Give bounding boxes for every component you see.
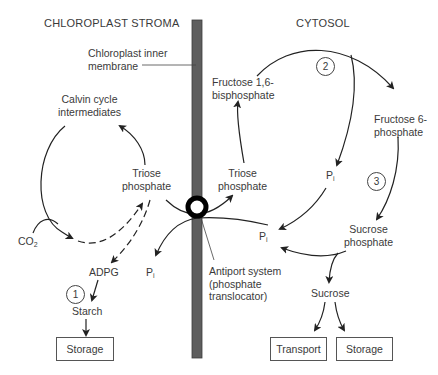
cytosol-triose-phosphate: Triose phosphate bbox=[218, 167, 267, 192]
stroma-storage-box: Storage bbox=[56, 337, 114, 361]
fructose-1-6-bisphosphate: Fructose 1,6- bisphosphate bbox=[212, 76, 274, 101]
stroma-triose-phosphate: Triose phosphate bbox=[122, 167, 171, 192]
sucrose-label: Sucrose bbox=[311, 287, 350, 300]
stroma-header: CHLOROPLAST STROMA bbox=[44, 17, 179, 30]
antiport-label: Antiport system (phosphate translocator) bbox=[209, 265, 281, 303]
co2-label: CO2 bbox=[18, 235, 38, 252]
fructose-6-phosphate: Fructose 6- phosphate bbox=[374, 113, 427, 138]
membrane-label: Chloroplast inner membrane bbox=[88, 47, 167, 72]
step-3-marker: 3 bbox=[367, 172, 386, 191]
step-1-marker: 1 bbox=[66, 285, 85, 304]
cytosol-pi-lower: Pi bbox=[259, 230, 268, 247]
cytosol-pi-upper: Pi bbox=[326, 169, 335, 186]
cytosol-storage-box: Storage bbox=[336, 337, 393, 361]
antiport-channel bbox=[188, 198, 206, 216]
calvin-cycle-intermediates: Calvin cycle intermediates bbox=[58, 93, 121, 118]
step-2-marker: 2 bbox=[316, 57, 335, 76]
transport-box: Transport bbox=[270, 337, 327, 361]
membrane-bar bbox=[192, 20, 202, 358]
adpg-label: ADPG bbox=[89, 266, 119, 279]
sucrose-phosphate: Sucrose phosphate bbox=[344, 223, 393, 248]
starch-label: Starch bbox=[72, 305, 102, 318]
stroma-pi-label: Pi bbox=[146, 266, 155, 283]
cytosol-header: CYTOSOL bbox=[296, 17, 350, 30]
